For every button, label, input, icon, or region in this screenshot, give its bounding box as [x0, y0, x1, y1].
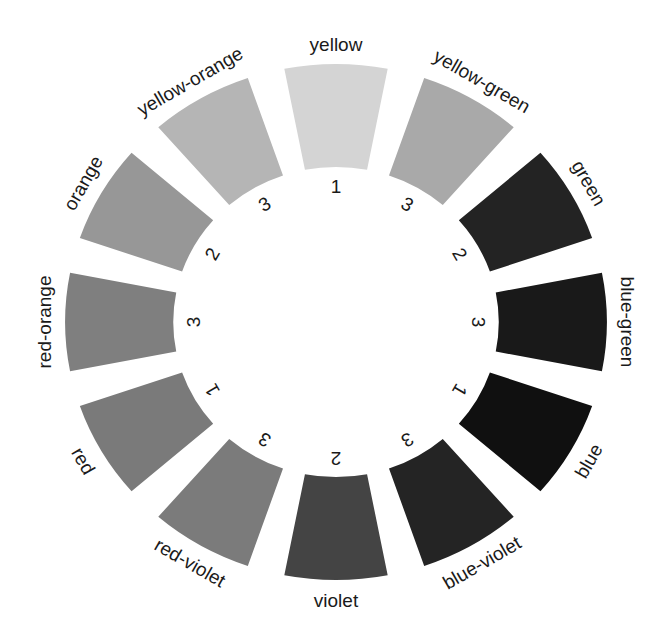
number-blue-green: 3	[468, 317, 489, 328]
number-yellow-green: 3	[398, 192, 418, 215]
segment-blue	[459, 372, 592, 491]
label-blue-green: blue-green	[617, 277, 638, 368]
color-segments	[65, 64, 607, 580]
label-violet: violet	[314, 590, 359, 611]
segment-blue-green	[496, 273, 607, 371]
segment-red-orange	[65, 273, 176, 371]
label-yellow: yellow	[310, 34, 363, 55]
color-wheel-diagram: yellowyellow-greengreenblue-greenblueblu…	[0, 0, 672, 635]
label-blue: blue	[571, 440, 607, 482]
number-orange: 2	[201, 244, 224, 264]
number-green: 2	[448, 244, 471, 264]
segment-yellow	[284, 64, 387, 170]
number-blue: 1	[448, 380, 471, 400]
number-yellow: 1	[331, 176, 342, 197]
number-red-orange: 3	[183, 317, 204, 328]
segment-violet	[284, 474, 387, 580]
number-yellow-orange: 3	[255, 192, 275, 215]
segment-red	[80, 372, 213, 491]
label-red: red	[67, 444, 99, 478]
label-red-orange: red-orange	[34, 276, 55, 369]
classification-number-labels: 132313231323	[183, 176, 490, 469]
number-blue-violet: 3	[398, 428, 418, 451]
number-violet: 2	[331, 448, 342, 469]
number-red-violet: 3	[255, 428, 275, 451]
number-red: 1	[201, 380, 224, 400]
